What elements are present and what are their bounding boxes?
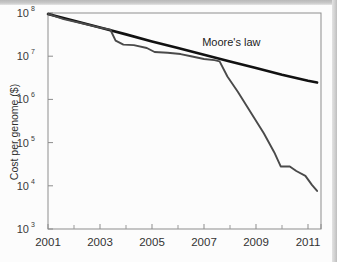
- data-series-group: [48, 14, 317, 191]
- chart-svg: 103104105106107108 200120032005200720092…: [0, 0, 337, 262]
- x-tick-label: 2011: [296, 236, 321, 248]
- y-tick-label: 108: [17, 5, 35, 19]
- figure-root: 103104105106107108 200120032005200720092…: [0, 0, 337, 262]
- y-tick-exponent: 5: [31, 135, 35, 142]
- y-axis-title: Cost per genome ($): [8, 84, 20, 180]
- x-axis-tick-labels: 200120032005200720092011: [35, 236, 320, 248]
- series-line-cost-per-genome: [48, 14, 317, 191]
- y-tick-mantissa: 10: [17, 180, 29, 192]
- axis-frame-group: [48, 13, 321, 229]
- y-tick-mantissa: 10: [17, 50, 29, 62]
- x-tick-label: 2005: [139, 236, 165, 248]
- y-tick-mantissa: 10: [17, 7, 29, 19]
- y-tick-label: 107: [17, 48, 35, 62]
- x-tick-label: 2001: [35, 236, 61, 248]
- y-tick-exponent: 4: [31, 178, 35, 185]
- y-tick-exponent: 7: [31, 48, 35, 55]
- plot-frame: [48, 13, 321, 229]
- y-tick-exponent: 6: [31, 91, 35, 98]
- x-tick-label: 2009: [243, 236, 269, 248]
- y-tick-label: 103: [17, 221, 35, 235]
- annotation-moores-law: Moore's law: [202, 36, 260, 48]
- x-axis-ticks: [48, 224, 321, 229]
- y-tick-mantissa: 10: [17, 223, 29, 235]
- chart-annotations: Moore's law: [202, 36, 260, 48]
- cost-per-genome-chart: 103104105106107108 200120032005200720092…: [0, 0, 337, 262]
- y-axis-title-group: Cost per genome ($): [8, 84, 20, 180]
- y-tick-exponent: 8: [31, 5, 35, 12]
- x-tick-label: 2007: [191, 236, 217, 248]
- y-axis-ticks: [48, 13, 53, 229]
- y-tick-exponent: 3: [31, 221, 35, 228]
- x-tick-label: 2003: [87, 236, 113, 248]
